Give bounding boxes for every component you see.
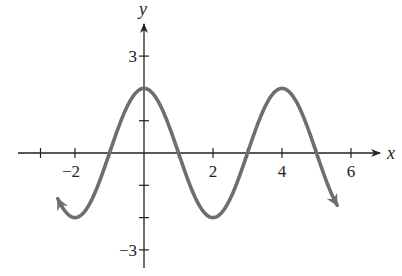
x-tick-label: 6 bbox=[347, 162, 356, 181]
x-tick-label: 4 bbox=[278, 162, 287, 181]
y-tick-label: 3 bbox=[129, 47, 138, 66]
x-tick-label: 2 bbox=[209, 162, 218, 181]
chart: −22463−3xy bbox=[0, 0, 402, 276]
x-tick-label: −2 bbox=[62, 162, 80, 181]
y-axis-label: y bbox=[137, 0, 147, 19]
plot-area: −22463−3xy bbox=[0, 0, 402, 276]
x-axis-label: x bbox=[386, 143, 395, 163]
labels: −22463−3xy bbox=[62, 0, 395, 260]
axes bbox=[18, 24, 380, 268]
y-tick-label: −3 bbox=[119, 241, 137, 260]
